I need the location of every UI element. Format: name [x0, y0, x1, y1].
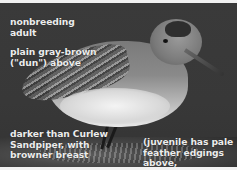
annotation-upperparts: plain gray-brown ("dun") above [10, 47, 97, 68]
bird-bill [184, 48, 225, 76]
bird-photo: nonbreeding adult plain gray-brown ("dun… [0, 3, 237, 167]
bird-cap [165, 21, 191, 37]
bird-eye [163, 39, 168, 43]
annotation-plumage-age: nonbreeding adult [10, 17, 75, 38]
annotation-juvenile-note: (juvenile has pale feather edgings above… [143, 137, 237, 167]
bird-belly [60, 88, 170, 124]
annotation-comparison: darker than Curlew Sandpiper, with brown… [10, 129, 108, 161]
